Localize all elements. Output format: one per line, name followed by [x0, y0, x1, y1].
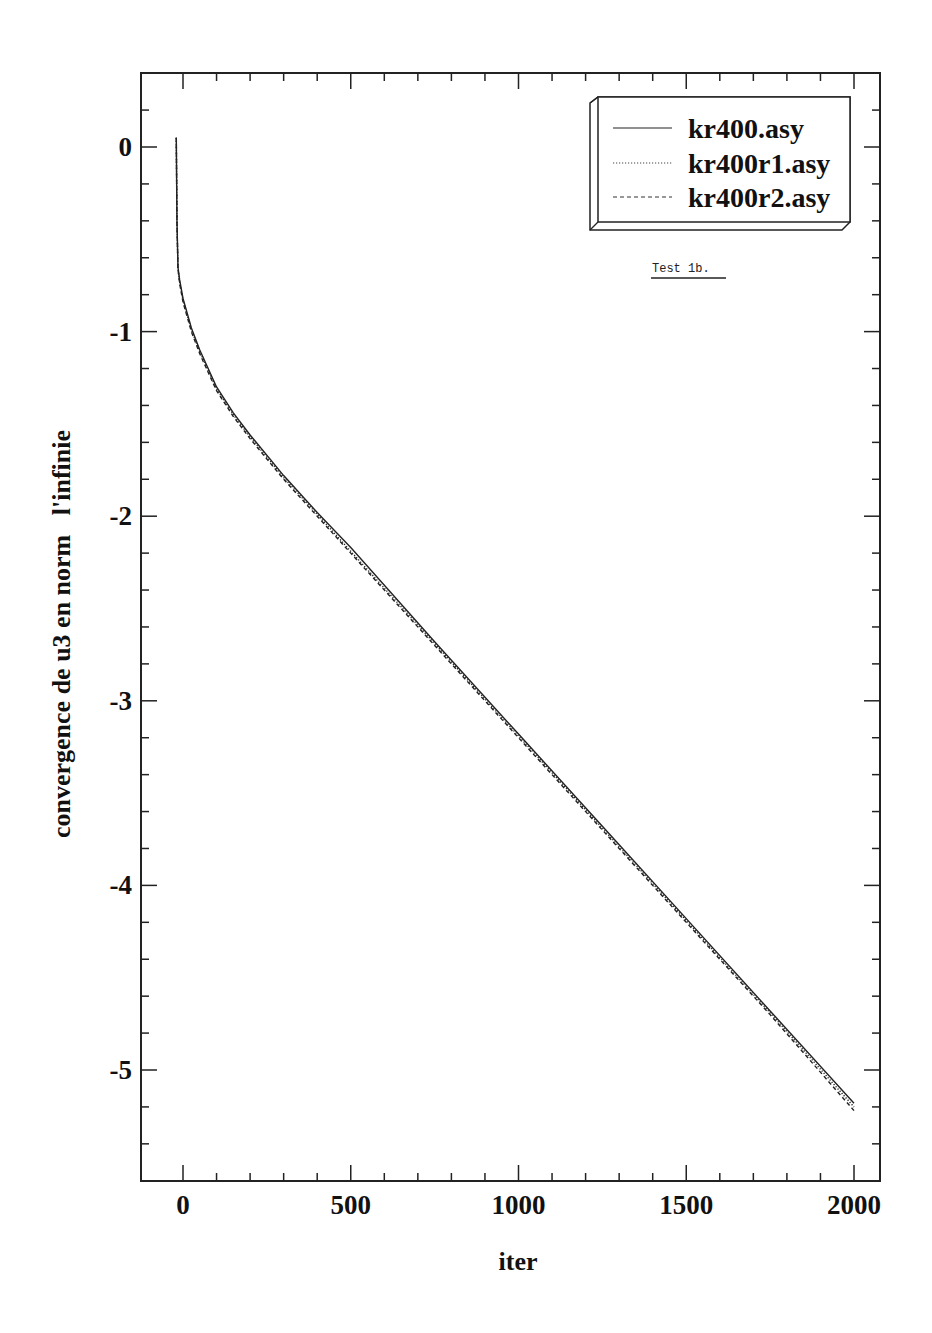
- legend-label: kr400r2.asy: [688, 182, 830, 213]
- series-kr400r1-asy: [176, 138, 854, 1107]
- x-tick-label: 500: [331, 1190, 372, 1220]
- y-axis-ticks: 0-1-2-3-4-5: [110, 110, 881, 1144]
- test-annotation: Test 1b.: [652, 262, 710, 276]
- x-axis-title: iter: [499, 1247, 538, 1276]
- x-axis-ticks: 0500100015002000: [176, 73, 881, 1220]
- y-tick-label: -2: [110, 501, 133, 531]
- series-kr400r2-asy: [176, 138, 854, 1111]
- x-tick-label: 1000: [492, 1190, 546, 1220]
- legend: kr400.asy kr400r1.asy kr400r2.asy: [590, 97, 850, 230]
- plot-frame: [141, 73, 880, 1181]
- legend-label: kr400.asy: [688, 113, 804, 144]
- y-tick-label: -1: [110, 317, 133, 347]
- x-tick-label: 2000: [827, 1190, 881, 1220]
- y-tick-label: -5: [110, 1055, 133, 1085]
- legend-label: kr400r1.asy: [688, 148, 830, 179]
- y-axis-title: convergence de u3 en norm l'infinie: [47, 430, 76, 838]
- x-tick-label: 0: [176, 1190, 190, 1220]
- y-tick-label: -3: [110, 686, 133, 716]
- y-tick-label: 0: [119, 132, 133, 162]
- series-kr400-asy: [176, 138, 854, 1103]
- y-tick-label: -4: [110, 870, 133, 900]
- x-tick-label: 1500: [659, 1190, 713, 1220]
- convergence-chart: 0500100015002000 0-1-2-3-4-5 kr400.asy k…: [0, 0, 932, 1333]
- series-lines: [176, 138, 854, 1111]
